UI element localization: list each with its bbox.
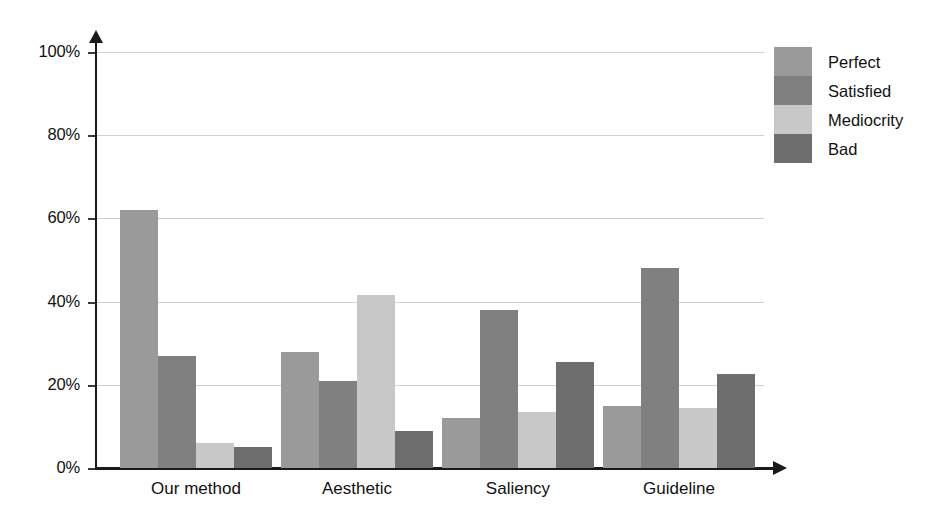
x-axis-group-label: Saliency bbox=[438, 479, 598, 499]
x-axis-arrow-icon bbox=[773, 461, 787, 475]
y-axis-arrow-icon bbox=[89, 30, 103, 43]
bars-container bbox=[96, 52, 764, 468]
bar-mediocrity-our-method bbox=[196, 443, 234, 468]
bar-chart: 100%80%60%40%20%0% Our methodAestheticSa… bbox=[0, 0, 946, 528]
y-axis-tick-label: 20% bbox=[18, 376, 80, 393]
legend: PerfectSatisfiedMediocrityBad bbox=[774, 47, 944, 163]
bar-bad-our-method bbox=[234, 447, 272, 468]
y-axis-tick-label: 60% bbox=[18, 209, 80, 226]
bar-mediocrity-aesthetic bbox=[357, 295, 395, 468]
bar-satisfied-saliency bbox=[480, 310, 518, 468]
legend-swatch-mediocrity bbox=[774, 105, 812, 134]
legend-item: Satisfied bbox=[774, 76, 944, 105]
legend-swatch-bad bbox=[774, 134, 812, 163]
bar-satisfied-our-method bbox=[158, 356, 196, 468]
bar-perfect-saliency bbox=[442, 418, 480, 468]
bar-satisfied-guideline bbox=[641, 268, 679, 468]
bar-perfect-guideline bbox=[603, 406, 641, 468]
legend-item: Perfect bbox=[774, 47, 944, 76]
y-axis-tick-label: 100% bbox=[18, 43, 80, 60]
bar-satisfied-aesthetic bbox=[319, 381, 357, 468]
bar-perfect-aesthetic bbox=[281, 352, 319, 468]
bar-mediocrity-saliency bbox=[518, 412, 556, 468]
legend-label: Perfect bbox=[828, 53, 880, 71]
x-axis-group-label: Our method bbox=[116, 479, 276, 499]
legend-item: Mediocrity bbox=[774, 105, 944, 134]
legend-item: Bad bbox=[774, 134, 944, 163]
bar-bad-guideline bbox=[717, 374, 755, 468]
legend-swatch-satisfied bbox=[774, 76, 812, 105]
y-axis-tick-label: 80% bbox=[18, 126, 80, 143]
bar-bad-aesthetic bbox=[395, 431, 433, 468]
y-axis-tick-label: 0% bbox=[18, 459, 80, 476]
x-axis-group-label: Aesthetic bbox=[277, 479, 437, 499]
x-axis-group-label: Guideline bbox=[599, 479, 759, 499]
legend-swatch-perfect bbox=[774, 47, 812, 76]
bar-mediocrity-guideline bbox=[679, 408, 717, 468]
legend-label: Bad bbox=[828, 140, 857, 158]
y-axis-tick-labels: 100%80%60%40%20%0% bbox=[18, 0, 80, 528]
bar-perfect-our-method bbox=[120, 210, 158, 468]
legend-label: Mediocrity bbox=[828, 111, 903, 129]
legend-label: Satisfied bbox=[828, 82, 891, 100]
y-axis-tick-label: 40% bbox=[18, 293, 80, 310]
bar-bad-saliency bbox=[556, 362, 594, 468]
